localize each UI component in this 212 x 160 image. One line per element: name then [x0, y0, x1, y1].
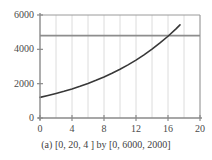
y-tick-label: 6000 — [14, 10, 34, 20]
y-tick-label: 2000 — [14, 79, 34, 89]
x-tick-label: 0 — [25, 124, 55, 134]
x-tick-label: 20 — [185, 124, 212, 134]
y-tick-label: 4000 — [14, 44, 34, 54]
gridlines-group — [56, 15, 200, 118]
y-tick-label: 0 — [29, 113, 34, 123]
figure-caption: (a) [0, 20, 4 ] by [0, 6000, 2000] — [0, 139, 212, 150]
x-tick-label: 16 — [153, 124, 183, 134]
x-tick-label: 8 — [89, 124, 119, 134]
figure-panel: 0200040006000 048121620 (a) [0, 20, 4 ] … — [0, 0, 212, 160]
x-tick-label: 4 — [57, 124, 87, 134]
x-tick-label: 12 — [121, 124, 151, 134]
